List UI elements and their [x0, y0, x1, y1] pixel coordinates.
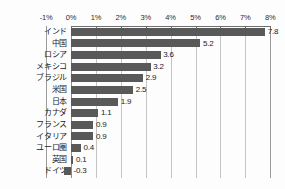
category-label: 米国 — [7, 84, 67, 96]
category-label: ブラジル — [7, 72, 67, 84]
bar-row: ユーロ圏0.4 — [0, 142, 285, 154]
bar-row: イタリア0.9 — [0, 131, 285, 143]
value-label: 7.8 — [268, 26, 279, 38]
category-label: フランス — [7, 119, 67, 131]
category-label: ロシア — [7, 49, 67, 61]
x-tick-label: 0% — [66, 13, 76, 22]
value-label: 0.9 — [96, 119, 107, 131]
x-tick-label: -1% — [40, 13, 53, 22]
bar — [71, 109, 98, 117]
bar — [71, 74, 143, 82]
bar-chart: -1%0%1%2%3%4%5%6%7%8% インド7.8中国5.2ロシア3.6メ… — [0, 0, 285, 189]
x-tick-label: 8% — [265, 13, 275, 22]
bar-row: 米国2.5 — [0, 84, 285, 96]
value-label: 0.4 — [83, 142, 94, 154]
bar — [64, 167, 71, 175]
value-label: -0.3 — [74, 165, 87, 177]
x-tick-label: 6% — [215, 13, 225, 22]
category-label: カナダ — [7, 107, 67, 119]
category-label: ユーロ圏 — [7, 142, 67, 154]
bar-row: ブラジル2.9 — [0, 72, 285, 84]
category-label: インド — [7, 26, 67, 38]
bar-row: ロシア3.6 — [0, 49, 285, 61]
bar-row: 日本1.9 — [0, 96, 285, 108]
bar — [71, 63, 151, 71]
bar — [71, 156, 73, 164]
value-label: 1.9 — [121, 96, 132, 108]
value-label: 0.9 — [96, 131, 107, 143]
bar — [71, 121, 93, 129]
bar — [71, 51, 161, 59]
bar — [71, 28, 265, 36]
x-tick-label: 2% — [116, 13, 126, 22]
x-tick-label: 3% — [140, 13, 150, 22]
value-label: 5.2 — [203, 38, 214, 50]
value-label: 2.9 — [146, 72, 157, 84]
bar-row: インド7.8 — [0, 26, 285, 38]
category-label: メキシコ — [7, 61, 67, 73]
category-label: 英国 — [7, 154, 67, 166]
x-tick-label: 1% — [91, 13, 101, 22]
bar-row: カナダ1.1 — [0, 107, 285, 119]
category-label: イタリア — [7, 131, 67, 143]
value-label: 1.1 — [101, 107, 112, 119]
value-label: 0.1 — [76, 154, 87, 166]
value-label: 3.6 — [163, 49, 174, 61]
bar-row: 英国0.1 — [0, 154, 285, 166]
category-label: 日本 — [7, 96, 67, 108]
value-label: 3.2 — [153, 61, 164, 73]
category-label: ドイツ — [7, 165, 67, 177]
bar — [71, 132, 93, 140]
value-label: 2.5 — [136, 84, 147, 96]
bar-row: フランス0.9 — [0, 119, 285, 131]
bar — [71, 86, 133, 94]
x-tick-label: 7% — [240, 13, 250, 22]
bar — [71, 144, 81, 152]
x-tick-label: 4% — [165, 13, 175, 22]
bar — [71, 98, 118, 106]
bar-row: 中国5.2 — [0, 38, 285, 50]
bar — [71, 39, 200, 47]
bar-row: メキシコ3.2 — [0, 61, 285, 73]
x-tick-label: 5% — [190, 13, 200, 22]
category-label: 中国 — [7, 38, 67, 50]
bar-row: ドイツ-0.3 — [0, 165, 285, 177]
